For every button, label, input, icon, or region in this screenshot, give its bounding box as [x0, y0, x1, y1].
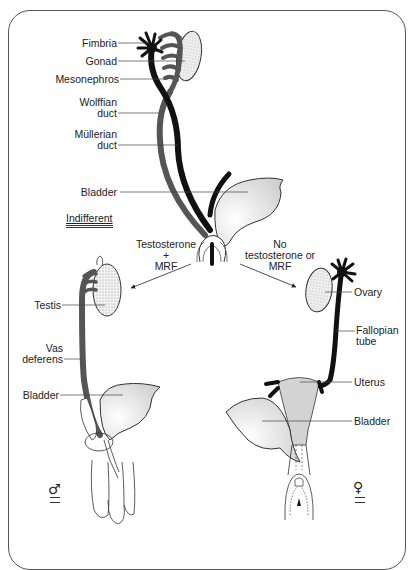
stage-label-text: Indifferent — [66, 212, 113, 228]
label-uterus: Uterus — [354, 377, 385, 388]
label-bladder-male: Bladder — [10, 390, 59, 401]
label-mesonephros: Mesonephros — [40, 74, 119, 85]
label-wolffian-duct-2: duct — [60, 108, 117, 119]
stage-label-indifferent: Indifferent — [66, 213, 113, 224]
label-fimbria: Fimbria — [60, 38, 117, 49]
female-stage — [226, 259, 355, 520]
label-ovary: Ovary — [354, 287, 382, 298]
label-bladder-indifferent: Bladder — [60, 187, 117, 198]
male-symbol-icon: ♂ — [48, 482, 61, 496]
indifferent-stage — [118, 29, 283, 264]
label-gonad: Gonad — [60, 56, 117, 67]
label-bladder-female: Bladder — [354, 416, 390, 427]
male-stage — [60, 256, 160, 524]
condition-male-3: MRF — [126, 261, 206, 272]
male-bladder-shape — [100, 383, 160, 440]
condition-female-3: MRF — [238, 261, 322, 272]
male-symbol-underline — [50, 497, 60, 503]
label-vas-deferens-2: deferens — [10, 354, 63, 365]
female-symbol-underline — [355, 497, 365, 503]
bladder-shape — [215, 178, 283, 246]
female-symbol-icon: ♀ — [353, 480, 363, 494]
ovary-shape — [303, 266, 335, 313]
label-testis: Testis — [20, 300, 61, 311]
label-fallopian-tube-2: tube — [356, 336, 376, 347]
label-mullerian-duct-2: duct — [60, 140, 117, 151]
